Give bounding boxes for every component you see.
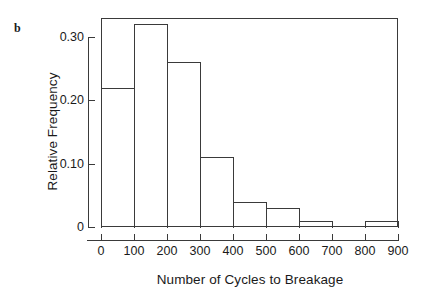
y-tick-label: 0.10	[42, 158, 84, 171]
figure: b Relative Frequency Number of Cycles to…	[0, 0, 435, 301]
x-tick-mark	[299, 234, 300, 241]
histogram-bar	[266, 208, 300, 228]
x-tick-mark	[200, 234, 201, 241]
x-tick-mark	[167, 234, 168, 241]
histogram-bar	[200, 157, 234, 228]
panel-letter: b	[14, 22, 21, 34]
x-tick-mark	[365, 234, 366, 241]
histogram-bar	[365, 221, 399, 228]
plot-frame-top	[101, 18, 398, 19]
x-tick-mark	[134, 234, 135, 241]
y-tick-label: 0.20	[42, 94, 84, 107]
plot-area: 00.100.200.30010020030040050060070080090…	[101, 18, 398, 227]
plot-frame-right	[397, 18, 398, 227]
histogram-bar	[167, 62, 201, 228]
x-tick-mark	[266, 234, 267, 241]
x-tick-mark	[101, 234, 102, 241]
y-tick-mark	[88, 37, 95, 38]
y-axis-spine	[88, 37, 89, 228]
x-axis-title: Number of Cycles to Breakage	[95, 272, 405, 287]
x-tick-mark	[332, 234, 333, 241]
y-tick-label: 0	[42, 221, 84, 234]
y-tick-mark	[88, 100, 95, 101]
y-axis-title: Relative Frequency	[45, 32, 60, 232]
y-tick-mark	[88, 164, 95, 165]
x-tick-mark	[233, 234, 234, 241]
x-tick-mark	[398, 234, 399, 241]
histogram-bar	[299, 221, 333, 228]
x-tick-label: 900	[378, 245, 418, 258]
histogram-bar	[134, 24, 168, 228]
y-tick-label: 0.30	[42, 31, 84, 44]
histogram-bar	[233, 202, 267, 228]
y-tick-mark	[88, 227, 95, 228]
histogram-bar	[101, 88, 135, 228]
